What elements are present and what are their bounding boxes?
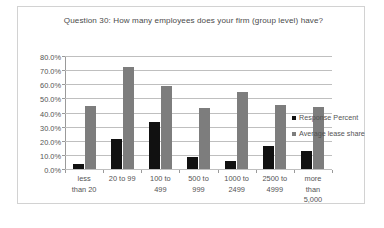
bar-average-lease-share xyxy=(275,105,286,169)
x-axis-tick xyxy=(141,170,142,173)
bar-response-percent xyxy=(187,157,198,169)
bar-group xyxy=(103,56,141,169)
bar-group xyxy=(179,56,217,169)
x-axis-tick xyxy=(218,170,219,173)
x-axis-tick xyxy=(65,170,66,173)
y-axis-tick-label: 70.0% xyxy=(40,67,61,76)
legend-item: Response Percent xyxy=(292,113,364,122)
legend-item: Average lease share xyxy=(292,129,364,138)
x-axis-tick-label: 100 to 499 xyxy=(141,174,179,195)
bar-response-percent xyxy=(263,146,274,169)
bar-group xyxy=(256,56,294,169)
bar-group xyxy=(218,56,256,169)
chart-legend: Response PercentAverage lease share xyxy=(292,113,364,145)
bar-average-lease-share xyxy=(123,67,134,169)
gridline xyxy=(65,169,332,170)
y-axis-tick-label: 10.0% xyxy=(40,151,61,160)
x-axis-tick-label: less than 20 xyxy=(65,174,103,195)
bar-average-lease-share xyxy=(199,108,210,169)
legend-label: Response Percent xyxy=(299,113,358,122)
bar-group xyxy=(141,56,179,169)
x-axis-tick xyxy=(103,170,104,173)
y-axis-tick-labels: 80.0%70.0%60.0%50.0%40.0%30.0%20.0%10.0%… xyxy=(20,57,61,170)
y-axis-tick-label: 40.0% xyxy=(40,109,61,118)
x-axis-tick-label: more than 5,000 xyxy=(294,174,332,206)
bar-response-percent xyxy=(149,122,160,169)
x-axis-tick-label: 500 to 999 xyxy=(179,174,217,195)
chart-title: Question 30: How many employees does you… xyxy=(46,15,341,26)
legend-swatch-icon xyxy=(292,116,296,120)
y-axis-tick-label: 0.0% xyxy=(44,166,61,175)
bar-group xyxy=(65,56,103,169)
x-axis-tick xyxy=(332,170,333,173)
legend-swatch-icon xyxy=(292,132,296,136)
bar-response-percent xyxy=(111,139,122,169)
x-axis-tick xyxy=(179,170,180,173)
x-axis-tick xyxy=(256,170,257,173)
x-axis-tick xyxy=(294,170,295,173)
chart-figure: Question 30: How many employees does you… xyxy=(17,6,365,204)
legend-label: Average lease share xyxy=(299,129,365,138)
y-axis-tick-label: 50.0% xyxy=(40,95,61,104)
y-axis-tick-label: 30.0% xyxy=(40,123,61,132)
x-axis-tick-labels: less than 2020 to 99100 to 499500 to 999… xyxy=(65,174,332,220)
bar-response-percent xyxy=(301,151,312,169)
y-axis-tick-label: 80.0% xyxy=(40,53,61,62)
x-axis-tick-label: 2500 to 4999 xyxy=(256,174,294,195)
x-axis-tick-label: 20 to 99 xyxy=(103,174,141,185)
bar-average-lease-share xyxy=(237,92,248,169)
y-axis-tick-label: 20.0% xyxy=(40,137,61,146)
bar-response-percent xyxy=(225,161,236,169)
y-axis-tick-label: 60.0% xyxy=(40,81,61,90)
bar-average-lease-share xyxy=(161,86,172,169)
bar-average-lease-share xyxy=(85,106,96,169)
x-axis-tick-label: 1000 to 2499 xyxy=(218,174,256,195)
bar-response-percent xyxy=(73,164,84,169)
